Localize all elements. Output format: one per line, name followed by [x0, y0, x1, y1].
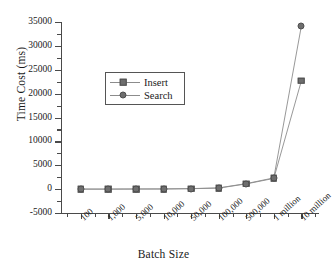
y-tick-label: 30000	[4, 41, 52, 51]
y-tick-minor	[57, 82, 61, 83]
circle-marker-icon	[243, 180, 250, 187]
legend-label-search: Search	[144, 89, 173, 102]
circle-marker-icon	[215, 184, 222, 191]
x-tick-label: 10,000	[162, 199, 186, 222]
x-axis-title: Batch Size	[0, 248, 327, 260]
circle-marker-icon	[160, 185, 167, 192]
y-tick-label: 0	[4, 184, 52, 194]
x-tick-minor	[67, 213, 68, 217]
circle-marker-icon	[77, 186, 84, 193]
legend-item-search[interactable]: Search	[110, 89, 180, 102]
x-tick-label: 10 million	[299, 191, 333, 223]
y-tick	[55, 46, 61, 47]
y-axis-line	[61, 22, 62, 214]
y-tick	[55, 165, 61, 166]
square-marker-icon	[298, 77, 305, 84]
circle-marker-icon	[120, 92, 127, 99]
y-axis-title: Time Cost (ms)	[15, 29, 27, 139]
y-tick	[55, 118, 61, 119]
circle-marker-icon	[188, 185, 195, 192]
y-tick-label: 5000	[4, 160, 52, 170]
y-tick-minor	[57, 201, 61, 202]
y-tick	[55, 70, 61, 71]
y-tick-minor	[57, 34, 61, 35]
y-tick-label: 15000	[4, 113, 52, 123]
y-tick-label: 20000	[4, 89, 52, 99]
y-tick-minor	[57, 106, 61, 107]
y-tick	[55, 94, 61, 95]
circle-marker-icon	[133, 186, 140, 193]
x-tick-label: 50,000	[189, 199, 213, 222]
y-tick-label: -5000	[4, 208, 52, 218]
x-tick-minor	[122, 213, 123, 217]
x-tick-label: 100	[79, 207, 95, 223]
y-tick-minor	[57, 58, 61, 59]
legend-label-insert: Insert	[144, 76, 168, 89]
y-tick	[55, 213, 61, 214]
x-tick-label: 1 million	[272, 194, 302, 223]
x-tick-minor	[315, 213, 316, 217]
y-tick-minor	[57, 177, 61, 178]
x-tick-minor	[260, 213, 261, 217]
x-tick-label: 100,000	[217, 196, 245, 222]
legend: Insert Search	[105, 72, 185, 105]
circle-marker-icon	[105, 186, 112, 193]
y-tick-label: 35000	[4, 17, 52, 27]
y-tick-label: 25000	[4, 65, 52, 75]
x-tick-label: 500,000	[244, 196, 272, 222]
circle-marker-icon	[270, 174, 277, 181]
legend-item-insert[interactable]: Insert	[110, 76, 180, 89]
y-tick-minor	[57, 153, 61, 154]
circle-marker-icon	[298, 22, 305, 29]
y-tick	[55, 189, 61, 190]
square-marker-icon	[120, 79, 127, 86]
y-tick	[55, 141, 61, 142]
y-tick	[55, 22, 61, 23]
y-tick-minor	[57, 129, 61, 130]
y-tick-label: 10000	[4, 136, 52, 146]
